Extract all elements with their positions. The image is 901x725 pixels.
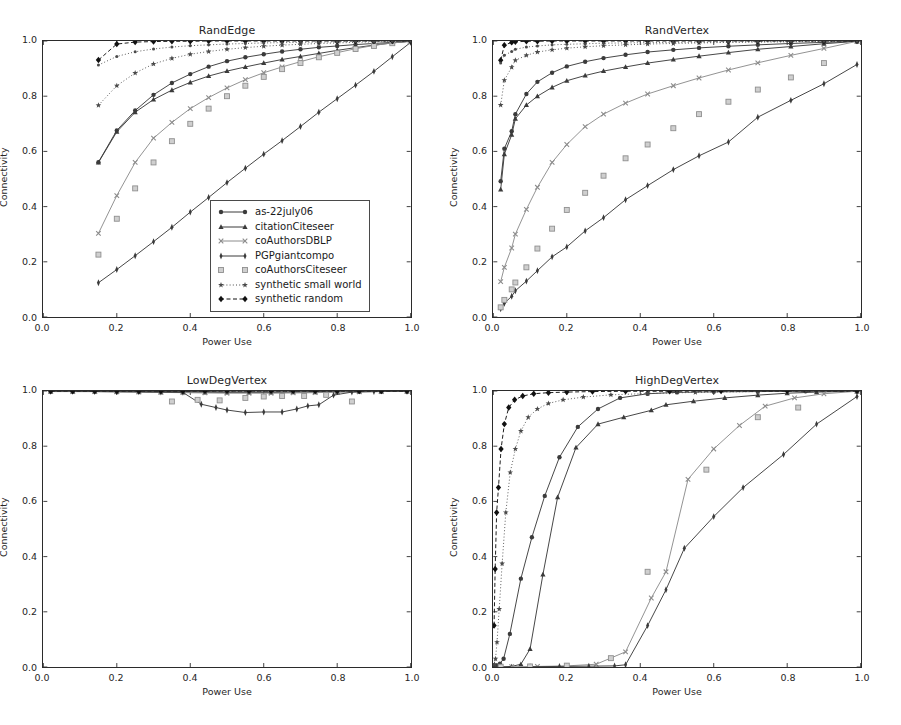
x-tick-label: 0.4: [176, 672, 204, 683]
y-tick-label: 0.4: [10, 551, 37, 562]
series-citationciteseer: [48, 391, 409, 394]
plot-canvas: [493, 391, 861, 667]
series-coauthorsciteseer: [498, 405, 801, 667]
y-tick-label: 0.4: [460, 201, 487, 212]
figure-connectivity-vs-power-use: RandEdge0.00.20.40.60.81.00.00.20.40.60.…: [0, 0, 901, 725]
series-synthetic-random: [96, 41, 411, 63]
x-tick-label: 0.2: [552, 672, 580, 683]
legend-item: coAuthorsCiteseer: [216, 263, 363, 278]
y-tick-label: 0.2: [460, 256, 487, 267]
tick-marks: [493, 391, 860, 667]
chart-panel-randvertex: RandVertex0.00.20.40.60.81.00.00.20.40.6…: [0, 0, 901, 725]
series-coauthorsdblp: [96, 41, 411, 236]
legend-label: coAuthorsCiteseer: [255, 264, 347, 276]
series-pgpgiantcompo: [49, 391, 408, 416]
x-tick-label: 0.8: [774, 322, 802, 333]
legend-marker-triangle-icon: [216, 221, 250, 233]
plot-canvas: [43, 391, 411, 667]
y-axis-label: Connectivity: [448, 147, 459, 207]
legend-label: synthetic random: [255, 293, 343, 305]
y-tick-label: 0.8: [460, 440, 487, 451]
series-synthetic-random: [48, 391, 410, 394]
legend-marker-x-icon: [216, 235, 250, 247]
plot-area: [492, 40, 862, 318]
legend-item: coAuthorsDBLP: [216, 234, 363, 249]
y-tick-label: 0.2: [10, 606, 37, 617]
x-tick-label: 0.0: [28, 322, 56, 333]
plot-canvas: [43, 41, 411, 317]
x-tick-label: 1.0: [848, 672, 876, 683]
x-tick-label: 0.4: [626, 322, 654, 333]
tick-marks: [43, 41, 410, 317]
x-axis-label: Power Use: [492, 686, 862, 697]
legend-label: coAuthorsDBLP: [255, 235, 332, 247]
x-tick-label: 0.6: [250, 322, 278, 333]
legend-marker-thin-diamond-icon: [216, 250, 250, 262]
y-tick-label: 0.6: [10, 495, 37, 506]
x-tick-label: 0.6: [250, 672, 278, 683]
series-coauthorsciteseer: [498, 61, 826, 310]
plot-area: [42, 390, 412, 668]
legend-label: as-22july06: [255, 206, 313, 218]
x-tick-label: 0.6: [700, 672, 728, 683]
series-as-22july06: [498, 41, 859, 183]
y-axis-label: Connectivity: [0, 147, 9, 207]
series-coauthorsciteseer: [169, 392, 354, 404]
y-tick-label: 0.8: [10, 440, 37, 451]
tick-marks: [43, 391, 410, 667]
series-as-22july06: [48, 391, 409, 394]
y-tick-label: 0.2: [460, 606, 487, 617]
x-tick-label: 0.8: [324, 322, 352, 333]
legend-marker-star-icon: [216, 279, 250, 291]
y-tick-label: 1.0: [10, 34, 37, 45]
legend-item: as-22july06: [216, 205, 363, 220]
chart-title: RandEdge: [42, 24, 412, 37]
y-tick-label: 1.0: [10, 384, 37, 395]
plot-area: [492, 390, 862, 668]
x-tick-label: 1.0: [398, 322, 426, 333]
y-tick-label: 1.0: [460, 34, 487, 45]
series-as-22july06: [493, 391, 859, 667]
x-tick-label: 0.8: [774, 672, 802, 683]
legend-marker-diamond-icon: [216, 293, 250, 305]
series-as-22july06: [96, 41, 411, 164]
legend-item: citationCiteseer: [216, 220, 363, 235]
series-as-22july06-upper-dotted: [97, 41, 411, 67]
series-citationciteseer: [96, 41, 411, 164]
x-tick-label: 0.0: [478, 322, 506, 333]
series-citationciteseer: [498, 391, 859, 667]
series-coauthorsdblp: [509, 391, 859, 667]
legend: as-22july06citationCiteseercoAuthorsDBLP…: [210, 200, 370, 312]
series-synthetic-small-world: [96, 41, 411, 108]
x-tick-label: 1.0: [398, 672, 426, 683]
x-tick-label: 0.2: [552, 322, 580, 333]
series-pgpgiantcompo: [499, 61, 858, 312]
y-tick-label: 1.0: [460, 384, 487, 395]
x-axis-label: Power Use: [42, 686, 412, 697]
legend-item: synthetic small world: [216, 278, 363, 293]
chart-title: HighDegVertex: [492, 374, 862, 387]
x-axis-label: Power Use: [492, 336, 862, 347]
x-tick-label: 0.2: [102, 672, 130, 683]
y-tick-label: 0.0: [10, 312, 37, 323]
series-synthetic-random: [493, 391, 860, 629]
series-synthetic-small-world: [493, 391, 860, 667]
x-tick-label: 0.6: [700, 322, 728, 333]
y-tick-label: 0.2: [10, 256, 37, 267]
x-tick-label: 0.0: [28, 672, 56, 683]
series-coauthorsciteseer: [96, 41, 411, 257]
tick-marks: [493, 41, 860, 317]
series-pgpgiantcompo: [529, 393, 859, 667]
chart-panel-lowdegvertex: LowDegVertex0.00.20.40.60.81.00.00.20.40…: [0, 0, 901, 725]
y-tick-label: 0.6: [10, 145, 37, 156]
x-tick-label: 1.0: [848, 322, 876, 333]
legend-item: synthetic random: [216, 292, 363, 307]
y-tick-label: 0.0: [460, 312, 487, 323]
chart-title: LowDegVertex: [42, 374, 412, 387]
y-tick-label: 0.6: [460, 495, 487, 506]
series-coauthorsdblp: [498, 41, 859, 284]
chart-panel-highdegvertex: HighDegVertex0.00.20.40.60.81.00.00.20.4…: [0, 0, 901, 725]
legend-label: PGPgiantcompo: [255, 250, 334, 262]
x-tick-label: 0.2: [102, 322, 130, 333]
y-tick-label: 0.0: [10, 662, 37, 673]
